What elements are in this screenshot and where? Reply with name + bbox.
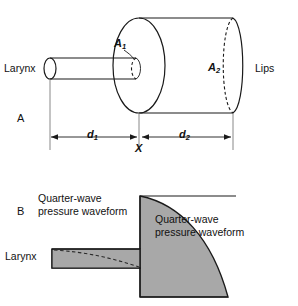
arrowhead-d1-left [51, 134, 58, 140]
waveform-left-caption-line2: pressure waveform [38, 205, 127, 218]
distance-near-subscript: 1 [94, 133, 98, 142]
waveform-left-caption: Quarter-wave pressure waveform [38, 192, 127, 218]
distance-far-subscript: 2 [186, 133, 190, 142]
diagram-canvas [0, 0, 298, 306]
cylinder-lips-dashed-arc [223, 18, 233, 113]
arrowhead-d1-right [130, 134, 137, 140]
waveform-left-caption-line1: Quarter-wave [38, 192, 127, 205]
arrowhead-d2-right [224, 134, 231, 140]
waveform-right-caption-line1: Quarter-wave [155, 213, 244, 226]
arrowhead-d2-left [142, 134, 149, 140]
figure-container: Larynx Lips A1 A2 A d1 d2 X B Quarter-wa… [0, 0, 298, 306]
vocal-tract-quarter-wave-region [140, 196, 228, 297]
distance-far-label: d2 [179, 128, 190, 142]
waveform-right-caption: Quarter-wave pressure waveform [155, 213, 244, 239]
distance-near-label: d1 [87, 128, 98, 142]
area-far-letter: A [208, 61, 216, 73]
cylinder-right-cap-arc [233, 18, 243, 113]
panel-b-larynx-label: Larynx [5, 250, 37, 262]
waveform-right-caption-line2: pressure waveform [155, 226, 244, 239]
area-far-subscript: 2 [216, 66, 220, 75]
area-near-label: A1 [114, 37, 126, 51]
area-near-letter: A [114, 37, 122, 49]
panel-b-label: B [17, 205, 24, 218]
distance-far-letter: d [179, 128, 186, 140]
tube-mouth-front-arc [136, 58, 141, 79]
panel-a-larynx-label: Larynx [4, 62, 36, 74]
panel-a-graphics [44, 18, 243, 150]
cylinder-left-face-ellipse [113, 18, 165, 113]
tube-left-opening-ellipse [44, 58, 56, 79]
area-far-label: A2 [208, 61, 220, 75]
panel-a-label: A [17, 112, 24, 125]
panel-a-lips-label: Lips [255, 62, 274, 74]
area-near-subscript: 1 [122, 42, 126, 51]
junction-label: X [135, 142, 142, 155]
tube-mouth-dashed-arc [132, 58, 137, 79]
distance-near-letter: d [87, 128, 94, 140]
